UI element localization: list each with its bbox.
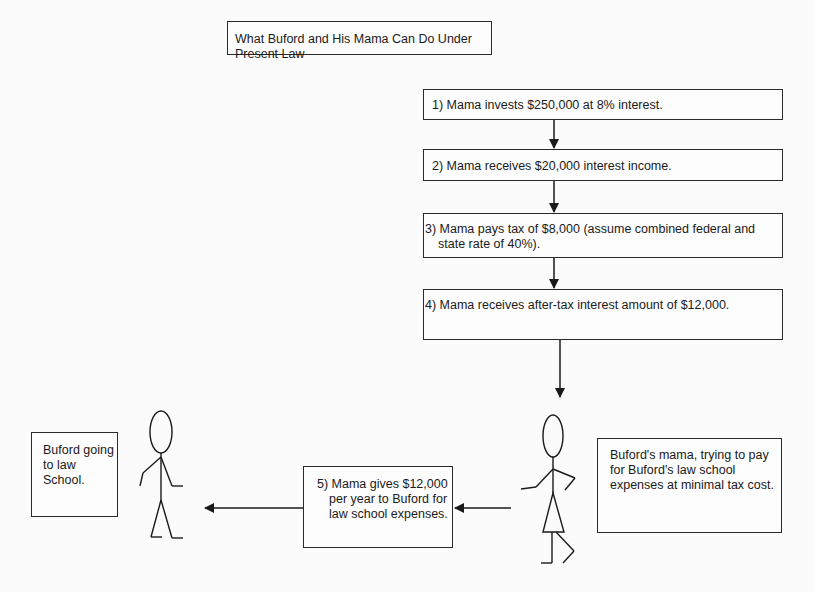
buford-stick-figure-icon [140, 411, 183, 538]
buford-caption-box: Buford going to law School. [31, 432, 118, 517]
step-4-text: 4) Mama receives after-tax interest amou… [438, 298, 774, 313]
step-1-box: 1) Mama invests $250,000 at 8% interest. [423, 89, 783, 120]
step-4-box: 4) Mama receives after-tax interest amou… [423, 289, 783, 340]
step-5-text: 5) Mama gives $12,000 per year to Buford… [329, 477, 452, 522]
step-5-box: 5) Mama gives $12,000 per year to Buford… [303, 466, 453, 548]
step-3-box: 3) Mama pays tax of $8,000 (assume combi… [423, 213, 783, 258]
mama-caption: Buford's mama, trying to pay for Buford'… [610, 448, 781, 493]
diagram-title-box: What Buford and His Mama Can Do Under Pr… [227, 21, 492, 55]
mama-caption-box: Buford's mama, trying to pay for Buford'… [597, 438, 782, 533]
step-2-box: 2) Mama receives $20,000 interest income… [423, 149, 783, 181]
buford-caption: Buford going to law School. [43, 443, 117, 488]
mama-stick-figure-icon [521, 415, 575, 563]
step-3-text: 3) Mama pays tax of $8,000 (assume combi… [438, 222, 774, 252]
step-2-text: 2) Mama receives $20,000 interest income… [432, 159, 672, 173]
step-1-text: 1) Mama invests $250,000 at 8% interest. [432, 98, 663, 112]
